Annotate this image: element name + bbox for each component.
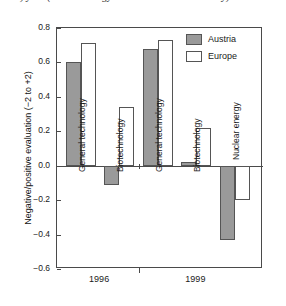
y-axis-tick-label: 0.6 <box>38 56 50 66</box>
legend-label-austria: Austria <box>208 34 236 44</box>
bar-category-label: Biotechnology <box>192 118 202 171</box>
legend-label-europe: Europe <box>208 51 237 61</box>
y-axis-tick-label: 0.2 <box>38 125 50 135</box>
y-axis-tick-mark <box>57 97 61 98</box>
y-axis-tick-label: 0.0 <box>38 160 50 170</box>
x-axis-group-label-1999: 1999 <box>185 274 205 284</box>
bar-category-label: General technology <box>154 98 164 172</box>
bar-category-label: Biotechnology <box>115 118 125 171</box>
bar-category-label: General technology <box>77 98 87 172</box>
bar-europe-4 <box>235 166 250 200</box>
y-axis-tick-mark <box>57 269 61 270</box>
bar-category-label: Nuclear energy <box>231 102 241 160</box>
bar-chart-figure: Negative/positive evaluation (−2 to +2) … <box>0 0 286 306</box>
y-axis-tick-label: −0.6 <box>33 263 50 273</box>
legend: Austria Europe <box>186 32 256 66</box>
y-axis-tick-mark <box>57 28 61 29</box>
y-axis-tick-label: −0.4 <box>33 229 50 239</box>
y-axis-tick-label: 0.4 <box>38 91 50 101</box>
y-axis-tick-label: −0.2 <box>33 194 50 204</box>
legend-swatch-austria-icon <box>186 34 202 45</box>
y-axis-label-container: Negative/positive evaluation (−2 to +2) <box>0 27 20 268</box>
y-axis-label: Negative/positive evaluation (−2 to +2) <box>23 48 33 248</box>
bar-austria-4 <box>220 166 235 240</box>
legend-swatch-europe-icon <box>186 51 202 62</box>
y-axis-tick-mark <box>57 166 61 167</box>
y-axis-tick-mark <box>57 235 61 236</box>
y-axis-tick-mark <box>57 131 61 132</box>
y-axis-tick-mark <box>57 200 61 201</box>
x-axis-group-separator-tick <box>139 164 140 169</box>
x-axis-group-label-1996: 1996 <box>89 274 109 284</box>
y-axis-tick-label: 0.8 <box>38 22 50 32</box>
x-axis-group-separator-tick <box>139 268 140 273</box>
legend-item-austria: Austria <box>186 32 256 46</box>
y-axis-tick-mark <box>57 62 61 63</box>
legend-item-europe: Europe <box>186 49 256 63</box>
